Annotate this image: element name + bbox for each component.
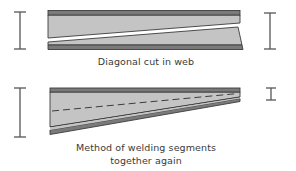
tapered-top-flange (50, 88, 240, 92)
welded-taper-panel (14, 88, 276, 137)
top-flange (48, 11, 240, 16)
right-shallow-i-section-symbol-icon (266, 88, 276, 100)
welding-caption-line-1: Method of welding segments (0, 141, 294, 154)
left-deep-i-section-symbol-icon (14, 88, 26, 137)
diagonal-cut-caption: Diagonal cut in web (0, 55, 294, 68)
right-i-section-symbol-icon (264, 13, 276, 49)
bottom-flange (48, 45, 243, 50)
welding-caption-line-2: together again (0, 154, 294, 167)
welding-method-caption: Method of welding segments together agai… (0, 141, 294, 167)
tapered-web (50, 92, 240, 127)
left-i-section-symbol-icon (14, 12, 26, 49)
diagonal-cut-panel (14, 11, 276, 50)
